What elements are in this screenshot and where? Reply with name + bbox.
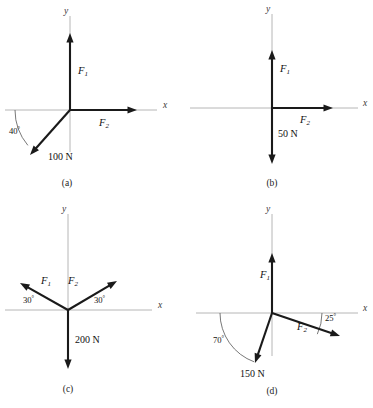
axes-b (190, 14, 358, 150)
panel-d: xyF1F2150 N70°25°(d) (196, 204, 368, 397)
degree-symbol: ° (18, 125, 21, 132)
degree-symbol: ° (222, 334, 225, 341)
force-label-f1: F1 (40, 275, 51, 288)
x-axis-label: x (162, 100, 168, 110)
axes-a (5, 16, 157, 152)
x-axis-label: x (362, 98, 368, 108)
force-subscript: 2 (306, 119, 310, 127)
force-label-f2: F2 (296, 321, 307, 334)
force-subscript: 2 (105, 122, 109, 130)
panel-c: xyF1F2200 N30°30°(c) (5, 204, 163, 395)
vector-f1 (268, 50, 275, 108)
magnitude-label-b: 50 N (278, 128, 298, 139)
degree-symbol: ° (103, 294, 106, 301)
force-subscript: 1 (47, 280, 51, 288)
force-subscript: 2 (74, 280, 78, 288)
vector-f3 (268, 108, 275, 164)
force-subscript: 2 (303, 326, 307, 334)
y-axis-label: y (265, 4, 271, 14)
angle-40-label: 40° (9, 125, 21, 136)
vector-f3 (255, 313, 272, 363)
magnitude-label-c: 200 N (75, 334, 100, 345)
force-diagram-svg: xyF1F2100 N40°(a)xyF1F250 N(b)xyF1F2200 … (0, 0, 373, 408)
vector-f3 (30, 110, 70, 155)
force-label-f2: F2 (98, 117, 109, 130)
panel-caption-c: (c) (63, 384, 74, 395)
panel-caption-b: (b) (266, 178, 277, 189)
magnitude-label-a: 100 N (48, 151, 73, 162)
panel-a: xyF1F2100 N40°(a) (5, 6, 168, 189)
y-axis-label: y (265, 204, 271, 214)
vector-f1 (66, 33, 73, 110)
angle-30-left-label: 30° (23, 294, 35, 305)
force-subscript: 1 (266, 274, 270, 282)
axes-c (5, 214, 152, 352)
magnitude-label-d: 150 N (240, 368, 265, 379)
force-label-f1: F1 (279, 63, 290, 76)
y-axis-label: y (61, 204, 67, 214)
angle-70-arc (220, 313, 254, 362)
vector-f2 (272, 104, 333, 111)
angle-30-right-label: 30° (94, 294, 106, 305)
force-label-f1: F1 (77, 65, 88, 78)
force-diagram-figure: xyF1F2100 N40°(a)xyF1F250 N(b)xyF1F2200 … (0, 0, 373, 408)
y-axis-label: y (63, 6, 69, 16)
force-subscript: 1 (286, 68, 290, 76)
vector-f1 (268, 253, 275, 313)
degree-symbol: ° (32, 294, 35, 301)
angle-25-label: 25° (325, 312, 337, 323)
panel-b: xyF1F250 N(b) (190, 4, 368, 189)
panel-caption-d: (d) (266, 386, 277, 397)
force-label-f2: F2 (299, 114, 310, 127)
vector-f2 (70, 106, 137, 113)
degree-symbol: ° (334, 312, 337, 319)
force-subscript: 1 (84, 70, 88, 78)
force-label-f2: F2 (67, 275, 78, 288)
x-axis-label: x (157, 300, 163, 310)
angle-70-label: 70° (213, 334, 225, 345)
x-axis-label: x (362, 303, 368, 313)
force-label-f1: F1 (259, 269, 270, 282)
vector-f3 (64, 310, 71, 369)
angle-25-arc (317, 313, 322, 334)
panel-caption-a: (a) (62, 178, 73, 189)
